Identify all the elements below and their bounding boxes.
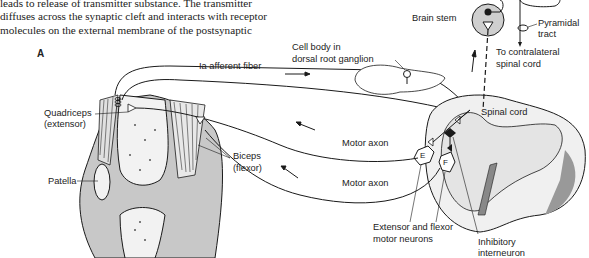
patella-bone: [94, 164, 110, 200]
label-contralateral-cord: spinal cord: [496, 59, 541, 70]
label-neuron-e: E: [420, 150, 425, 161]
label-dorsal-root-ganglion: dorsal root ganglion: [292, 54, 374, 65]
ganglion-cell-body: [404, 71, 411, 78]
panel-label: A: [37, 48, 44, 59]
label-motor-neurons: motor neurons: [373, 234, 433, 245]
label-inhibitory: Inhibitory: [478, 237, 516, 248]
label-neuron-f: F: [443, 157, 448, 168]
reflex-diagram: [0, 0, 589, 258]
label-interneuron: interneuron: [478, 248, 525, 258]
label-spinal-cord: Spinal cord: [481, 107, 528, 118]
label-motor-axon-2: Motor axon: [342, 178, 389, 189]
label-extensor-flexor: Extensor and flexor: [373, 222, 453, 233]
label-motor-axon-1: Motor axon: [342, 138, 389, 149]
dorsal-root-ganglion: [355, 65, 445, 94]
label-quadriceps: Quadriceps: [44, 108, 92, 119]
label-pyramidal-tract: tract: [538, 29, 556, 40]
label-patella: Patella: [48, 176, 76, 187]
label-brain-stem: Brain stem: [412, 13, 456, 24]
label-biceps-flexor: (flexor): [233, 163, 262, 174]
motor-direction-arrow-icon: [281, 122, 315, 178]
label-ia-afferent-fiber: Ia afferent fiber: [199, 61, 261, 72]
label-biceps: Biceps: [233, 151, 261, 162]
label-quadriceps-extensor: (extensor): [44, 119, 86, 130]
ascending-arrow-icon: [472, 50, 476, 72]
label-pyramidal: Pyramidal: [538, 18, 579, 29]
direction-arrow-icon: [285, 72, 310, 76]
brain-stem-neuron: [485, 9, 492, 16]
label-contralateral: To contralateral: [496, 47, 560, 58]
label-cell-body: Cell body in: [292, 42, 341, 53]
